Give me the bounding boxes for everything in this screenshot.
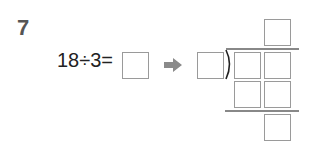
subtraction-line xyxy=(225,110,299,112)
right-arrow-icon xyxy=(164,58,182,72)
product-tens-box[interactable] xyxy=(234,81,261,108)
product-ones-box[interactable] xyxy=(264,81,291,108)
division-bracket xyxy=(224,49,234,80)
dividend-ones-box[interactable] xyxy=(264,52,291,79)
remainder-box[interactable] xyxy=(264,114,291,141)
dividend-tens-box[interactable] xyxy=(234,52,261,79)
division-top-line xyxy=(226,48,299,50)
division-equation: 18÷3= xyxy=(57,50,113,70)
divisor-box[interactable] xyxy=(197,52,224,79)
question-number: 7 xyxy=(17,15,29,41)
quotient-box[interactable] xyxy=(264,19,291,46)
answer-box[interactable] xyxy=(122,52,149,79)
